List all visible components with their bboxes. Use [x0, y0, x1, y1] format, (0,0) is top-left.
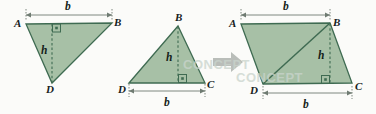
geometry-diagram: A B D b h B D C h b A B D C b h b CONCEP…: [0, 0, 376, 114]
middle-vertex-label-D: D: [118, 84, 126, 95]
right-vertex-label-B: B: [333, 17, 340, 28]
left-vertex-label-D: D: [46, 84, 54, 95]
left-vertex-label-A: A: [14, 18, 21, 29]
left-vertex-label-B: B: [114, 17, 121, 28]
left-dimension-label-b: b: [65, 1, 71, 13]
middle-dimension-label-b: b: [164, 97, 170, 109]
middle-vertex-label-C: C: [207, 79, 214, 90]
right-vertex-label-D: D: [250, 85, 258, 96]
right-dimension-label-b-top: b: [283, 1, 289, 13]
left-triangle-shape: [26, 23, 112, 83]
watermark-text-secondary: CONCEPT: [236, 70, 303, 85]
right-dimension-label-b-bottom: b: [303, 99, 309, 111]
right-vertex-label-C: C: [355, 81, 362, 92]
right-vertex-label-A: A: [229, 18, 236, 29]
middle-dimension-label-h: h: [166, 52, 172, 64]
left-figure-group: [26, 9, 112, 83]
right-dimension-label-h: h: [318, 50, 324, 62]
middle-vertex-label-B: B: [175, 12, 182, 23]
left-dimension-label-h: h: [41, 45, 47, 57]
